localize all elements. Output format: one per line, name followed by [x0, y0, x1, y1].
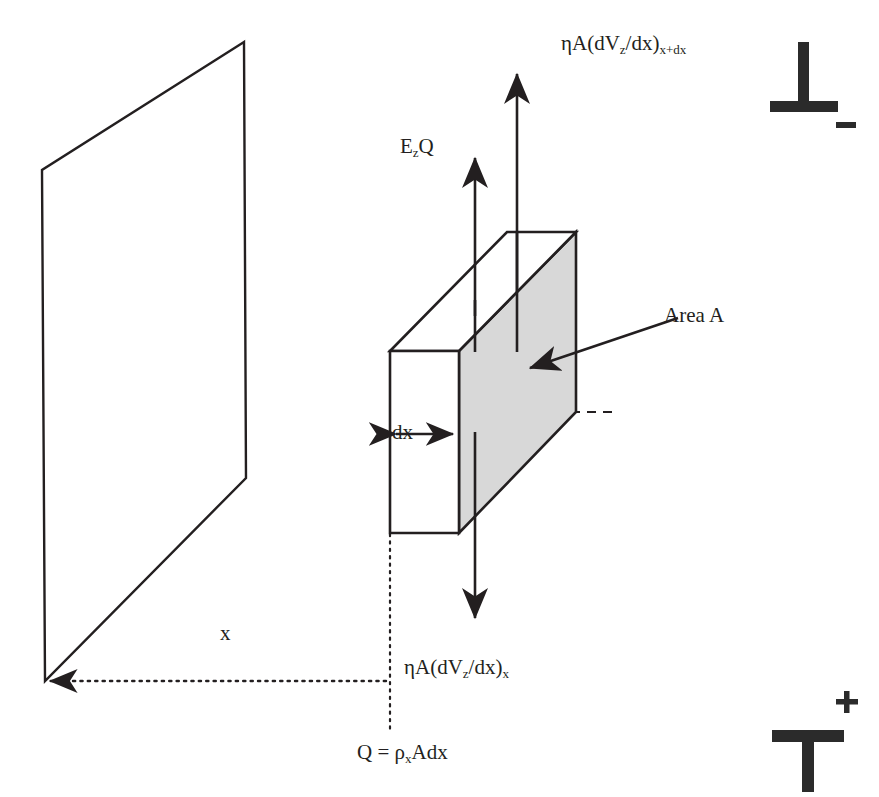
figure-canvas: ηA(dVz/dx)x+dx EzQ Area A dx x ηA(dVz/dx…: [0, 0, 879, 797]
x-distance-label: x: [220, 623, 231, 644]
area-a-label: Area A: [664, 305, 724, 326]
dx-label: dx: [392, 422, 413, 443]
electric-force-label: EzQ: [400, 136, 434, 159]
flux-top-label: ηA(dVz/dx)x+dx: [561, 33, 686, 56]
flux-bottom-label: ηA(dVz/dx)x: [404, 657, 509, 680]
positive-electrode-symbol: [772, 691, 858, 792]
charged-wall-plane: [42, 42, 246, 681]
negative-electrode-symbol: [770, 42, 856, 128]
charge-label: Q = ρxAdx: [357, 742, 448, 765]
